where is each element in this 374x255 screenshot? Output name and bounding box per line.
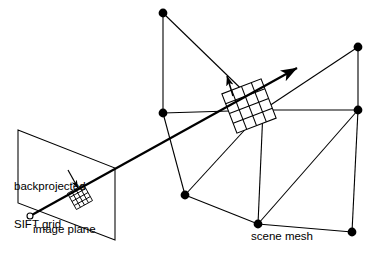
backprojected-sift-grid-label: backprojected SIFT grid	[14, 155, 86, 255]
figure-canvas: backprojected SIFT grid image plane scen…	[0, 0, 374, 255]
mesh-vertex	[159, 9, 168, 18]
mesh-vertex	[348, 228, 357, 237]
mesh-vertex	[354, 43, 363, 52]
mesh-edge	[352, 110, 358, 232]
mesh-vertex	[159, 109, 168, 118]
mesh-edge	[258, 110, 263, 224]
mesh-edge	[163, 113, 185, 195]
backprojected-label-line1: backprojected	[14, 180, 86, 193]
mesh-vertex	[181, 191, 190, 200]
mesh-edge	[258, 110, 358, 224]
mesh-edge	[185, 195, 258, 224]
image-plane-label: image plane	[33, 223, 96, 236]
mesh-vertex	[254, 220, 263, 229]
scene-mesh-label: scene mesh	[251, 230, 313, 243]
mesh-vertex	[354, 106, 363, 115]
